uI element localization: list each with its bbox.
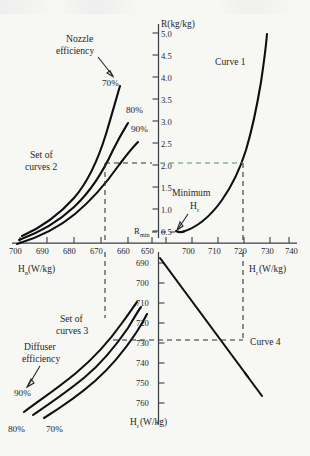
annot-set-curves-2-line2: curves 2 [25,161,57,172]
x-tick-hr-720: 720 [234,246,247,256]
curve-4 [160,258,248,377]
annot-nozzle-efficiency-line2: efficiency [56,45,94,56]
annot-curve-4: Curve 4 [250,336,281,347]
x-tick-hn-690: 690 [36,246,49,256]
label-eff-70: 70% [102,78,119,88]
annot-set-curves-2-line1: Set of [30,149,53,160]
svg-text:r: r [256,269,258,276]
y-tick-4.0: 4.0 [161,73,172,83]
lower-y-tick-690: 690 [136,258,149,268]
x-tick-hn-700: 700 [9,246,22,256]
x-tick-hr-710: 710 [208,246,221,256]
y-tick-2.5: 2.5 [161,139,172,149]
svg-text:H: H [130,417,137,427]
svg-text:(W/kg): (W/kg) [140,417,167,428]
nomogram-figure: R(kg/kg) 5.0 4.5 4.0 3.5 3.0 2.5 2.0 1.5… [0,0,310,456]
y-tick-4.5: 4.5 [161,51,172,61]
annot-diffuser-efficiency-line1: Diffuser [24,341,57,352]
lower-y-tick-760: 760 [136,398,149,408]
x-tick-hr-700: 700 [182,246,195,256]
upper-x-ticks-left [20,237,152,243]
upper-x-ticks-right [166,237,289,243]
lower-y-tick-700: 700 [136,278,149,288]
svg-text:r: r [137,422,139,429]
y-tick-3.0: 3.0 [161,117,172,127]
lower-axis-name: H r (W/kg) [130,417,167,429]
label-eff-90: 90% [131,124,148,134]
upper-y-ticks [153,33,159,231]
annot-minimum-line1: Minimum [172,187,211,198]
y-tick-3.5: 3.5 [161,95,172,105]
label-eff-80: 80% [126,105,143,115]
x-tick-hn-680: 680 [63,246,76,256]
svg-text:min: min [140,231,150,238]
svg-text:r: r [197,206,199,213]
annot-curve-1: Curve 1 [215,56,246,67]
y-tick-2.0: 2.0 [161,161,172,171]
x-tick-hr-740: 740 [285,246,298,256]
lower-y-tick-710: 710 [136,298,149,308]
label-diffuser-80: 80% [8,424,25,434]
lower-y-ticks [159,263,165,403]
x-tick-hn-650: 650 [141,246,154,256]
annot-set-curves-3-line2: curves 3 [56,325,88,336]
curve-4-extension [245,373,262,396]
rmin-label: R min [134,226,150,238]
arrow-minimum [178,214,188,229]
upper-left-axis-name: H n (W/kg) [18,264,55,276]
annot-nozzle-efficiency-line1: Nozzle [66,33,93,44]
lower-y-tick-750: 750 [136,378,149,388]
svg-text:H: H [18,264,25,274]
upper-right-axis-name: H r (W/kg) [249,264,286,276]
lower-y-tick-740: 740 [136,358,149,368]
x-tick-hr-730: 730 [261,246,274,256]
label-diffuser-70: 70% [46,424,63,434]
svg-text:H: H [249,264,256,274]
annot-set-curves-3-line1: Set of [60,313,83,324]
arrow-diffuser-efficiency-head [27,379,34,387]
label-diffuser-90: 90% [14,388,31,398]
y-tick-1.5: 1.5 [161,183,172,193]
curve-nozzle-80 [19,123,128,240]
annot-diffuser-efficiency-line2: efficiency [22,353,60,364]
svg-text:H: H [190,200,197,211]
svg-text:(W/kg): (W/kg) [28,264,55,275]
y-tick-5.0: 5.0 [161,29,172,39]
arrow-nozzle-efficiency-head [107,71,113,77]
svg-text:(W/kg): (W/kg) [259,264,286,275]
y-tick-1.0: 1.0 [161,205,172,215]
x-tick-hn-660: 660 [117,246,130,256]
x-tick-hn-670: 670 [90,246,103,256]
annot-minimum-line2: H r [190,200,199,213]
